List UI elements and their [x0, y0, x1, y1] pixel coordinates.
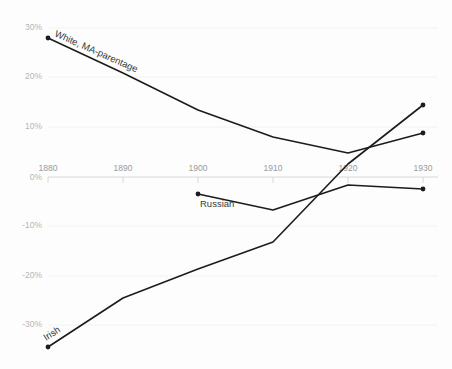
series-dot-russian-start — [196, 192, 201, 197]
ytick-label-0: 0% — [30, 172, 43, 182]
ytick-label-30: 30% — [25, 22, 42, 32]
x-axis-labels: 1880 1890 1900 1910 1920 1930 — [39, 163, 433, 173]
series-label-white: White, MA-parentage — [53, 28, 139, 75]
series-dot-russian-end — [421, 187, 426, 192]
ytick-label-neg30: -30% — [22, 319, 42, 329]
ytick-label-neg20: -20% — [22, 270, 42, 280]
series-label-russian: Russian — [200, 198, 234, 209]
ytick-label-10: 10% — [25, 121, 42, 131]
series-dot-white-start — [46, 36, 51, 41]
xtick-label-1930: 1930 — [414, 163, 433, 173]
y-axis-labels: 30% 20% 10% 0% -10% -20% -30% — [22, 22, 42, 329]
xtick-label-1880: 1880 — [39, 163, 58, 173]
series-dot-irish-start — [46, 345, 51, 350]
series-dot-irish-end — [421, 103, 426, 108]
ytick-label-20: 20% — [25, 71, 42, 81]
x-tickmarks — [48, 177, 423, 183]
line-chart: 30% 20% 10% 0% -10% -20% -30% 1880 1890 … — [0, 0, 452, 369]
chart-canvas: 30% 20% 10% 0% -10% -20% -30% 1880 1890 … — [0, 0, 452, 369]
xtick-label-1900: 1900 — [189, 163, 208, 173]
xtick-label-1910: 1910 — [264, 163, 283, 173]
xtick-label-1890: 1890 — [114, 163, 133, 173]
ytick-label-neg10: -10% — [22, 220, 42, 230]
series-dot-white-end — [421, 131, 426, 136]
